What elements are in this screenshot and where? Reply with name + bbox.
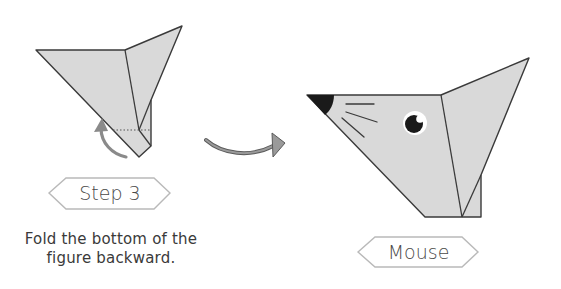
mouse-body (307, 58, 529, 217)
eye-icon (403, 111, 427, 135)
step3-figure (36, 26, 182, 157)
step-instruction: Fold the bottom of the figure backward. (18, 230, 204, 268)
step3-body (36, 26, 182, 157)
instruction-line-1: Fold the bottom of the (18, 230, 204, 249)
step-label: Step 3 (66, 180, 154, 207)
mouse-figure (307, 58, 529, 217)
transition-arrow-icon (206, 133, 285, 157)
instruction-line-2: figure backward. (18, 249, 204, 268)
result-label: Mouse (375, 239, 462, 265)
